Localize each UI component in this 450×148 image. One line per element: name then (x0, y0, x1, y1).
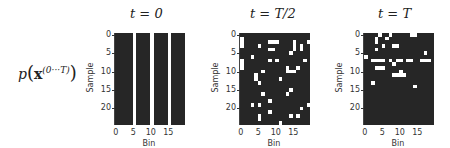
heatmap-grid (114, 33, 185, 125)
y-tick-label: 15 (220, 85, 236, 94)
x-tick-label: 0 (358, 128, 372, 137)
row-label-joint-probability: p(x(0···T)) (18, 62, 77, 83)
x-tick-label: 15 (286, 128, 300, 137)
y-tick-label: 10 (95, 67, 111, 76)
y-tick-label: 15 (344, 85, 360, 94)
heatmap-cell (182, 121, 186, 125)
x-tick-label: 10 (393, 128, 407, 137)
x-axis-label: Bin (239, 139, 309, 148)
x-tick-label: 5 (251, 128, 265, 137)
x-tick-label: 10 (144, 128, 158, 137)
y-axis-label: Sample (86, 58, 95, 98)
x-tick-label: 15 (410, 128, 424, 137)
y-tick-label: 0 (220, 30, 236, 39)
panel-title-thalf: t = T/2 (250, 6, 296, 21)
heatmap-cell (307, 121, 311, 125)
time-superscript: (0···T) (42, 65, 69, 75)
panel-title-t0: t = 0 (130, 6, 163, 21)
y-tick-label: 0 (95, 30, 111, 39)
heatmap-panel-thalf: 05101520051015BinSample (239, 33, 309, 125)
y-tick-label: 5 (95, 48, 111, 57)
x-tick-label: 5 (126, 128, 140, 137)
heatmap-panel-t0: 05101520051015BinSample (114, 33, 184, 125)
heatmap-grid (363, 33, 434, 125)
y-tick-label: 20 (344, 103, 360, 112)
x-tick-label: 10 (269, 128, 283, 137)
y-tick-label: 5 (344, 48, 360, 57)
x-tick-label: 15 (161, 128, 175, 137)
heatmap-grid (239, 33, 310, 125)
y-tick-label: 0 (344, 30, 360, 39)
y-tick-label: 10 (220, 67, 236, 76)
x-tick-label: 5 (375, 128, 389, 137)
x-axis-label: Bin (114, 139, 184, 148)
y-tick-label: 10 (344, 67, 360, 76)
prob-symbol: p (18, 66, 27, 82)
heatmap-panel-tT: 05101520051015BinSample (363, 33, 433, 125)
y-tick-label: 20 (95, 103, 111, 112)
y-tick-label: 15 (95, 85, 111, 94)
x-tick-label: 0 (234, 128, 248, 137)
y-tick-label: 20 (220, 103, 236, 112)
heatmap-cell (431, 121, 435, 125)
y-axis-label: Sample (211, 58, 220, 98)
x-tick-label: 0 (109, 128, 123, 137)
y-tick-label: 5 (220, 48, 236, 57)
panel-title-tT: t = T (378, 6, 411, 21)
x-axis-label: Bin (363, 139, 433, 148)
y-axis-label: Sample (335, 58, 344, 98)
